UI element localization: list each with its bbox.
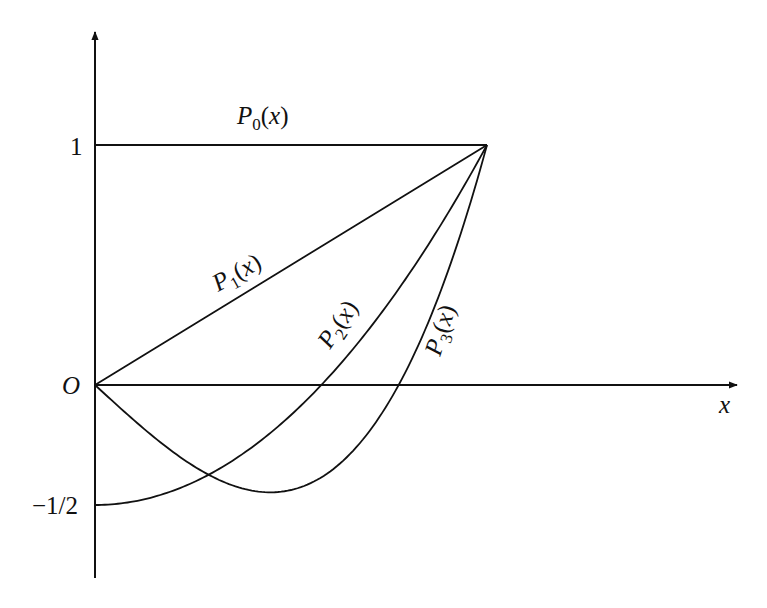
- label-p0: P0(x): [236, 102, 289, 134]
- svg-text:P3(x): P3(x): [419, 301, 466, 361]
- curve-p3: [95, 145, 487, 492]
- label-p1: P1(x): [206, 248, 267, 301]
- origin-label: O: [62, 372, 80, 399]
- y-tick-neg-half: −1/2: [32, 492, 78, 519]
- svg-text:P2(x): P2(x): [311, 295, 367, 356]
- legendre-polynomials-chart: 1 −1/2 O x P0(x) P1(x) P2(x) P3(x): [0, 0, 767, 608]
- svg-text:P1(x): P1(x): [206, 248, 267, 301]
- y-tick-1: 1: [70, 133, 83, 160]
- x-axis-label: x: [718, 391, 730, 418]
- svg-text:P0(x): P0(x): [236, 102, 289, 134]
- label-p3: P3(x): [419, 301, 466, 361]
- label-p2: P2(x): [311, 295, 367, 356]
